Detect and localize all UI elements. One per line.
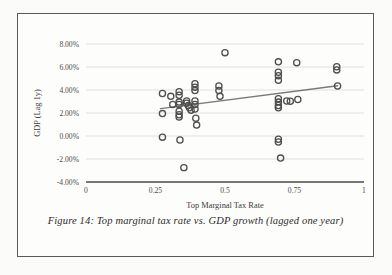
- data-point: [294, 60, 300, 66]
- data-point: [159, 134, 165, 140]
- data-point: [278, 155, 284, 161]
- data-points: [159, 50, 340, 171]
- y-axis-tick-labels: 8.00%6.00%4.00%2.00%0.00%-2.00%-4.00%: [57, 40, 80, 187]
- figure-caption: Figure 14: Top marginal tax rate vs. GDP…: [25, 215, 366, 226]
- data-point: [159, 90, 165, 96]
- y-axis-label: GDP (Lag 1y): [33, 89, 42, 137]
- x-tick-label: 1: [362, 186, 366, 195]
- data-point: [177, 137, 183, 143]
- x-tick-label: 0: [84, 186, 88, 195]
- data-point: [159, 110, 165, 116]
- scatter-chart: 8.00%6.00%4.00%2.00%0.00%-2.00%-4.00% 00…: [0, 0, 392, 275]
- x-axis-label: Top Marginal Tax Rate: [186, 201, 264, 210]
- gridlines: [86, 44, 364, 159]
- data-point: [295, 96, 301, 102]
- data-point: [168, 93, 174, 99]
- data-point: [193, 115, 199, 121]
- x-axis-tick-labels: 00.250.50.751: [84, 186, 366, 195]
- x-tick-label: 0.5: [220, 186, 230, 195]
- y-tick-label: 8.00%: [59, 40, 79, 49]
- y-tick-label: 2.00%: [59, 109, 79, 118]
- x-tick-label: 0.75: [288, 186, 301, 195]
- figure-page: 8.00%6.00%4.00%2.00%0.00%-2.00%-4.00% 00…: [0, 0, 392, 275]
- data-point: [194, 122, 200, 128]
- data-point: [181, 165, 187, 171]
- data-point: [222, 50, 228, 56]
- data-point: [275, 77, 281, 83]
- y-tick-label: 0.00%: [59, 132, 79, 141]
- y-tick-label: -2.00%: [57, 155, 80, 164]
- y-tick-label: -4.00%: [57, 178, 80, 187]
- data-point: [275, 59, 281, 65]
- y-tick-label: 6.00%: [59, 63, 79, 72]
- x-tick-label: 0.25: [149, 186, 162, 195]
- y-tick-label: 4.00%: [59, 86, 79, 95]
